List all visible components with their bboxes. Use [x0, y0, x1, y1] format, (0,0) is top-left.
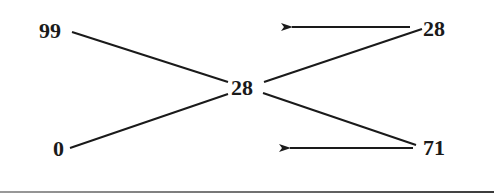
input-label-top: 99: [39, 20, 61, 42]
input-label-bottom: 0: [53, 138, 64, 160]
output-label-bottom: 71: [423, 137, 445, 159]
edge-99-to-center: [72, 32, 228, 82]
center-label: 28: [231, 77, 253, 99]
edge-center-to-28: [264, 29, 422, 82]
edge-center-to-71: [263, 93, 416, 145]
edge-0-to-center: [70, 94, 228, 148]
bottom-divider: [0, 191, 494, 193]
output-label-top: 28: [423, 18, 445, 40]
exchange-diagram: 99 0 28 28 71: [0, 0, 494, 195]
